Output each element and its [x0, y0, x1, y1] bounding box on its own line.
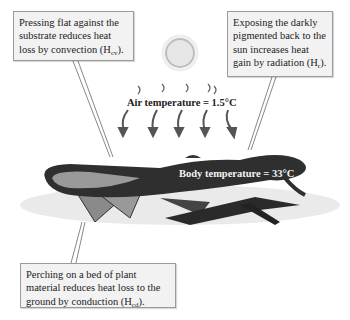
heat-arrow-icons [119, 110, 236, 137]
heat-ray-icons [138, 84, 216, 94]
callout-text: Exposing the darkly pigmented back to th… [233, 17, 326, 68]
conduction-callout: Perching on a bed of plant material redu… [20, 263, 176, 308]
thermoregulation-diagram: Air temperature = 1.5°C Body temperature… [0, 0, 350, 320]
callout-tail: ). [320, 57, 326, 68]
radiation-callout: Exposing the darkly pigmented back to th… [227, 11, 333, 77]
callout-text: Pressing flat against the substrate redu… [19, 17, 119, 55]
callout-tail: ). [117, 44, 123, 55]
callout-tail: ). [138, 296, 144, 307]
body-temperature-label: Body temperature = 33°C [179, 168, 294, 179]
air-temperature-label: Air temperature = 1.5°C [127, 97, 237, 108]
sun-icon [163, 36, 197, 70]
convection-callout: Pressing flat against the substrate redu… [13, 11, 134, 61]
